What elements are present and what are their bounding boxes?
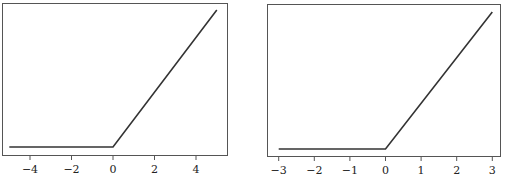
right-relu-line	[279, 12, 493, 149]
left-plot-frame	[3, 4, 228, 156]
x-tick-label: 1	[418, 164, 425, 177]
x-tick-label: −2	[306, 164, 322, 177]
x-tick-label: 2	[151, 163, 158, 176]
x-tick-label: −4	[22, 163, 38, 176]
left-chart: −4−2024	[3, 4, 228, 177]
x-tick-label: 3	[489, 164, 496, 177]
x-tick-label: −2	[63, 163, 79, 176]
x-tick-label: 0	[382, 164, 389, 177]
left-relu-line	[9, 10, 217, 147]
x-tick-label: −3	[271, 164, 287, 177]
x-tick-label: 0	[110, 163, 117, 176]
right-chart: −3−2−10123	[268, 5, 501, 178]
right-plot-frame	[268, 5, 501, 157]
x-tick-label: −1	[342, 164, 358, 177]
right-x-axis-ticks: −3−2−10123	[271, 157, 496, 177]
x-tick-label: 2	[453, 164, 460, 177]
left-x-axis-ticks: −4−2024	[22, 156, 200, 176]
x-tick-label: 4	[193, 163, 200, 176]
relu-charts: −4−2024 −3−2−10123	[0, 0, 508, 187]
